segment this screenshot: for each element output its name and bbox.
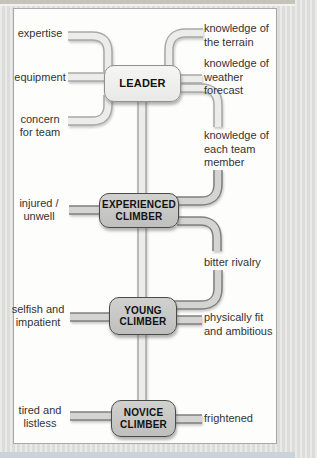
connector-rivalry-young [172, 270, 218, 305]
connector-leader-terrain [169, 33, 203, 70]
attribute-label-tired-listless: tired and listless [16, 404, 64, 430]
attribute-label-expertise: expertise [14, 27, 66, 40]
attribute-label-frightened: frightened [204, 412, 253, 426]
connector-leader-concern [68, 95, 108, 121]
attribute-label-bitter-rivalry: bitter rivalry [204, 256, 261, 270]
node-leader: LEADER [104, 65, 181, 102]
attribute-label-injured-unwell: injured / unwell [14, 197, 64, 223]
attribute-label-knowledge-weather: knowledge of weather forecast [204, 57, 276, 98]
attribute-label-selfish-impatient: selfish and impatient [10, 303, 66, 329]
node-experienced-climber: EXPERIENCED CLIMBER [99, 193, 179, 228]
node-novice-climber: NOVICE CLIMBER [111, 400, 176, 437]
connector-experienced-rivalry [177, 221, 217, 251]
node-young-climber: YOUNG CLIMBER [109, 297, 177, 335]
attribute-label-knowledge-terrain: knowledge of the terrain [204, 22, 276, 49]
attribute-label-concern-for-team: concern for team [14, 113, 66, 139]
attribute-label-physically-fit: physically fit and ambitious [204, 311, 282, 338]
attribute-label-knowledge-team-member: knowledge of each team member [204, 129, 276, 170]
connector-leader-expertise [68, 36, 108, 72]
attribute-label-equipment: equipment [14, 71, 66, 84]
connector-team-member-experienced [176, 170, 218, 201]
